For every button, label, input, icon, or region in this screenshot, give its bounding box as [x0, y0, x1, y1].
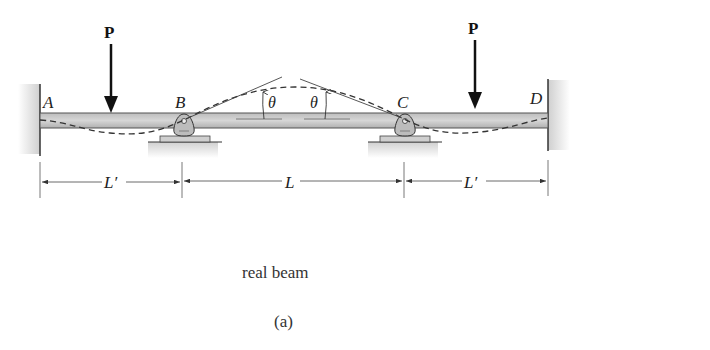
load-label-p-left: P	[104, 23, 114, 42]
dimension-label-ab: L′	[103, 173, 117, 192]
caption-title: real beam	[242, 263, 309, 282]
right-wall-support	[548, 79, 570, 151]
load-label-p-right: P	[468, 19, 478, 38]
arrow-down-icon	[104, 96, 118, 113]
left-wall-support	[18, 84, 40, 156]
theta-label-right: θ	[310, 94, 318, 111]
dimension-label-bc: L	[284, 173, 294, 192]
point-label-b: B	[175, 93, 186, 112]
caption-subfigure: (a)	[274, 312, 293, 331]
beam-diagram: θ θ P P A B C D L′ L L′ real beam (a)	[0, 0, 710, 350]
beam	[40, 113, 548, 128]
point-label-d: D	[529, 89, 543, 108]
theta-label-left: θ	[268, 94, 276, 111]
load-arrow-right	[468, 40, 482, 109]
point-label-a: A	[42, 93, 54, 112]
point-label-c: C	[397, 93, 409, 112]
dimension-label-cd: L′	[463, 173, 477, 192]
load-arrow-left	[104, 44, 118, 113]
arrow-down-icon	[468, 92, 482, 109]
